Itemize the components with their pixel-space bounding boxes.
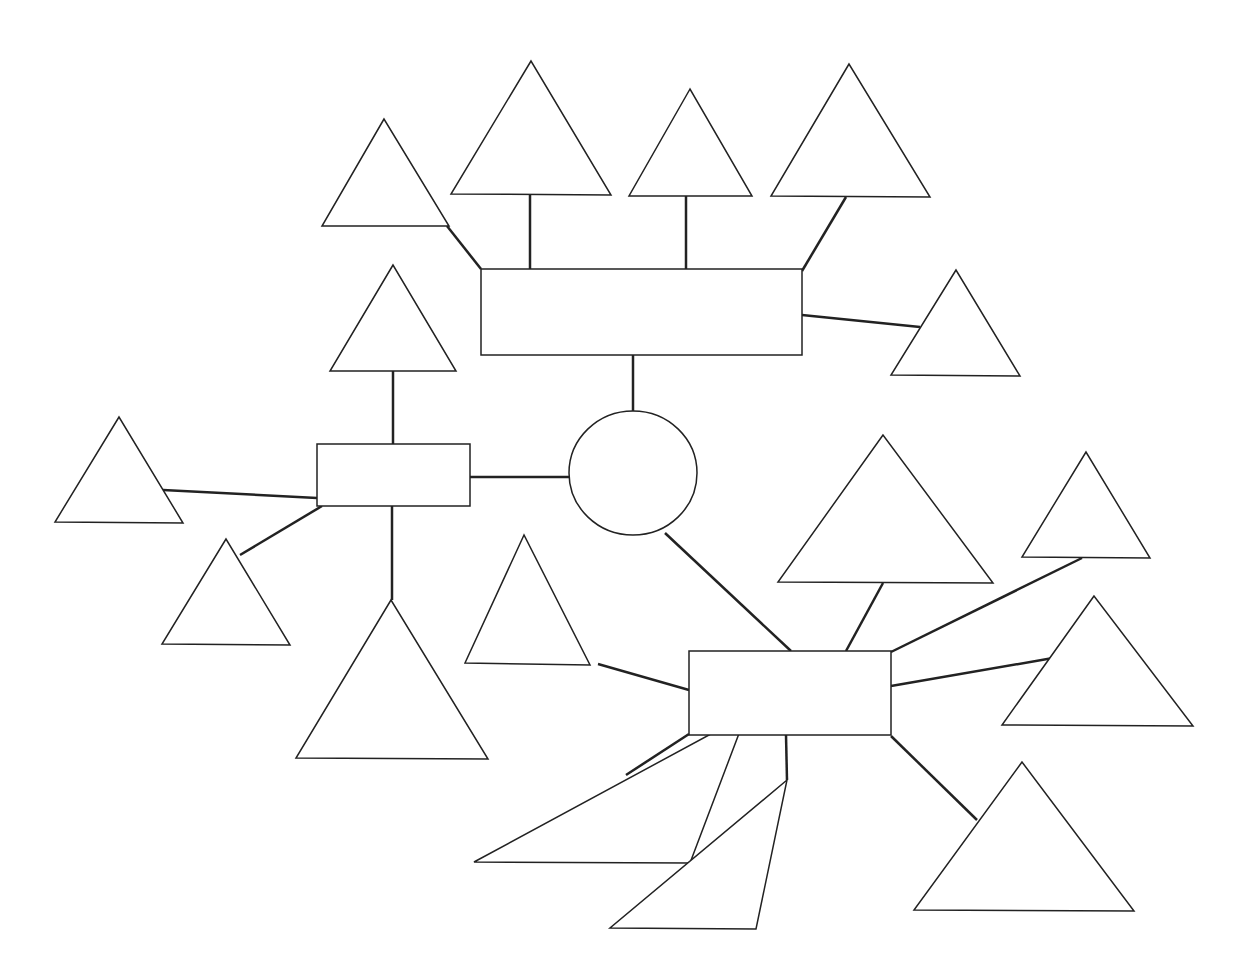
triangle-node [465,535,590,665]
connector-line [802,315,920,327]
triangle-node [1022,452,1150,558]
connector-line [846,583,883,651]
triangle-node [629,89,752,196]
triangle-node [296,600,488,759]
triangle-node [451,61,611,195]
connector-line [598,664,689,690]
rectangle-node-left-box [317,444,470,506]
triangle-node [330,265,456,371]
rectangle-node-bottom-right-box [689,651,891,735]
connector-line [802,197,846,271]
rectangle-node-top-box [481,269,802,355]
connector-line [665,533,791,651]
connector-line [163,490,317,498]
triangle-node [778,435,993,583]
center-circle-node [569,411,697,535]
triangle-node [891,270,1020,376]
connector-line [891,658,1053,686]
connector-line [786,735,787,780]
connector-line [891,736,977,820]
triangle-node [55,417,183,523]
triangle-node [914,762,1134,911]
connector-line [240,506,322,555]
triangle-node [162,539,290,645]
triangle-node [771,64,930,197]
triangle-node [322,119,449,226]
mind-map-diagram [0,0,1249,974]
connector-line [447,226,481,269]
triangle-node [474,715,746,863]
center-circle [569,411,697,535]
